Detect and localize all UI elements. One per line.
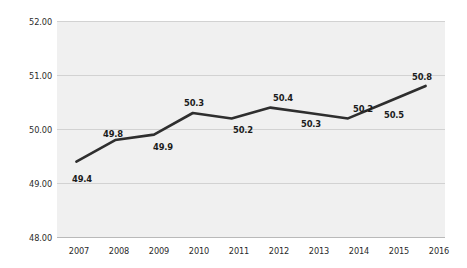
data-label-2010: 50.3 [184, 98, 204, 108]
data-label-2014: 50.2 [353, 104, 373, 114]
y-tick-label-50: 50.00 [29, 125, 52, 135]
data-label-2009: 49.9 [153, 142, 173, 152]
chart-canvas: 52.00 51.00 50.00 49.00 48.00 2007 2008 … [0, 0, 467, 268]
y-tick-label-49: 49.00 [29, 179, 52, 189]
x-tick-label-2013: 2013 [309, 246, 329, 256]
data-label-2016: 50.8 [412, 72, 432, 82]
x-tick-label-2007: 2007 [69, 246, 89, 256]
data-label-2015: 50.5 [384, 110, 404, 120]
x-tick-label-2009: 2009 [149, 246, 169, 256]
x-tick-label-2014: 2014 [349, 246, 369, 256]
line-chart: 52.00 51.00 50.00 49.00 48.00 2007 2008 … [0, 0, 467, 268]
data-label-2012: 50.4 [273, 93, 293, 103]
data-label-2011: 50.2 [233, 125, 253, 135]
data-label-2007: 49.4 [72, 174, 92, 184]
x-tick-label-2008: 2008 [109, 246, 129, 256]
data-label-2008: 49.8 [103, 129, 123, 139]
x-axis-tick-labels: 2007 2008 2009 2010 2011 2012 2013 2014 … [69, 246, 449, 256]
data-label-2013: 50.3 [301, 119, 321, 129]
y-tick-label-52: 52.00 [29, 17, 52, 27]
x-tick-label-2015: 2015 [389, 246, 409, 256]
x-tick-label-2016: 2016 [429, 246, 449, 256]
x-tick-label-2010: 2010 [189, 246, 209, 256]
y-tick-label-48: 48.00 [29, 233, 52, 243]
y-tick-label-51: 51.00 [29, 71, 52, 81]
x-tick-label-2011: 2011 [229, 246, 249, 256]
x-tick-label-2012: 2012 [269, 246, 289, 256]
y-axis-tick-labels: 52.00 51.00 50.00 49.00 48.00 [29, 17, 52, 243]
